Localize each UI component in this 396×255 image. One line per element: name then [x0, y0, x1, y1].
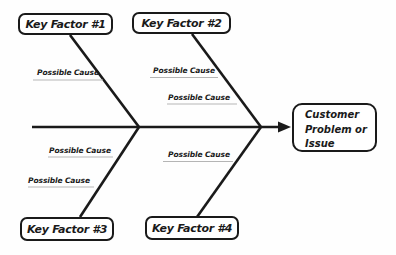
rib-factor-1 — [70, 35, 139, 127]
key-factor-1-label: Key Factor #1 — [25, 18, 105, 31]
key-factor-1-box: Key Factor #1 — [18, 13, 113, 35]
key-factor-4-box: Key Factor #4 — [145, 216, 239, 240]
key-factor-2-box: Key Factor #2 — [132, 12, 231, 34]
effect-box: Customer Problem or Issue — [292, 103, 377, 152]
possible-cause-label: Possible Cause — [46, 146, 114, 155]
possible-cause-label: Possible Cause — [150, 66, 218, 75]
rib-factor-4 — [197, 127, 261, 217]
possible-cause-label: Possible Cause — [164, 150, 234, 159]
arrowhead-icon — [278, 122, 291, 133]
possible-cause-label: Possible Cause — [26, 176, 92, 185]
rib-factor-2 — [192, 34, 261, 127]
effect-line-3: Issue — [305, 137, 371, 152]
key-factor-3-box: Key Factor #3 — [20, 217, 114, 241]
key-factor-3-label: Key Factor #3 — [27, 223, 107, 236]
rib-factor-3 — [80, 127, 139, 217]
possible-cause-label: Possible Cause — [33, 68, 103, 77]
effect-line-2: Problem or — [305, 123, 371, 138]
effect-line-1: Customer — [305, 108, 371, 123]
key-factor-4-label: Key Factor #4 — [152, 222, 232, 235]
key-factor-2-label: Key Factor #2 — [141, 17, 221, 30]
fishbone-diagram: Key Factor #1 Key Factor #2 Key Factor #… — [0, 0, 396, 255]
possible-cause-label: Possible Cause — [164, 93, 234, 102]
